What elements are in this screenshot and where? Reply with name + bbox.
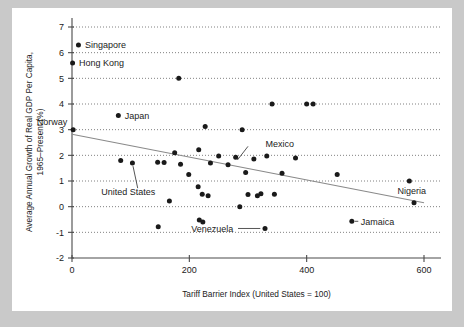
data-point xyxy=(251,156,256,161)
data-point xyxy=(272,192,277,197)
chart-canvas: -2-1012345670200400600 SingaporeHong Kon… xyxy=(0,0,464,327)
point-label: United States xyxy=(101,187,156,197)
data-point xyxy=(264,154,269,159)
point-label: Nigeria xyxy=(398,186,427,196)
y-tick-label: 7 xyxy=(59,22,64,32)
data-point xyxy=(167,199,172,204)
data-point xyxy=(196,184,201,189)
y-tick-label: 4 xyxy=(59,99,64,109)
leader-line xyxy=(133,166,138,188)
y-axis-title-line1: Average Annual Growth of Real GDP Per Ca… xyxy=(24,52,34,232)
y-tick-label: 5 xyxy=(59,74,64,84)
x-axis-title: Tariff Barrier Index (United States = 10… xyxy=(182,289,331,299)
data-point xyxy=(76,42,81,47)
data-point xyxy=(311,102,316,107)
data-point xyxy=(162,160,167,165)
y-axis-title-line2: 1965–Present (%) xyxy=(35,108,45,175)
leader-line xyxy=(237,146,248,160)
data-point xyxy=(70,60,75,65)
data-point xyxy=(255,193,260,198)
data-point xyxy=(226,162,231,167)
data-point xyxy=(412,200,417,205)
point-label: Hong Kong xyxy=(79,58,124,68)
data-point xyxy=(280,171,285,176)
data-point xyxy=(270,102,275,107)
x-tick-label: 0 xyxy=(69,265,74,275)
data-point xyxy=(176,76,181,81)
y-tick-label: 2 xyxy=(59,151,64,161)
gridlines xyxy=(73,27,441,232)
data-point xyxy=(156,224,161,229)
scatter-plot: -2-1012345670200400600 SingaporeHong Kon… xyxy=(0,0,464,327)
data-point xyxy=(263,226,268,231)
data-point xyxy=(200,192,205,197)
data-point xyxy=(118,158,123,163)
data-point xyxy=(130,161,135,166)
y-tick-label: -1 xyxy=(56,228,64,238)
data-point xyxy=(216,154,221,159)
data-point xyxy=(186,172,191,177)
data-point xyxy=(293,155,298,160)
x-tick-label: 200 xyxy=(182,265,197,275)
data-point xyxy=(155,160,160,165)
data-point xyxy=(71,127,76,132)
data-point xyxy=(407,179,412,184)
data-point xyxy=(233,155,238,160)
data-point xyxy=(116,113,121,118)
point-label: Singapore xyxy=(85,40,126,50)
data-point xyxy=(237,204,242,209)
data-points xyxy=(70,42,416,231)
x-tick-label: 400 xyxy=(299,265,314,275)
y-tick-label: 0 xyxy=(59,202,64,212)
data-point xyxy=(304,102,309,107)
data-point xyxy=(243,170,248,175)
leader-lines xyxy=(133,146,358,228)
data-point xyxy=(196,147,201,152)
data-point xyxy=(349,219,354,224)
data-point xyxy=(246,192,251,197)
point-labels: SingaporeHong KongJapanNorwayMexicoUnite… xyxy=(37,40,426,234)
point-label: Jamaica xyxy=(361,217,395,227)
data-point xyxy=(335,172,340,177)
data-point xyxy=(178,162,183,167)
point-label: Mexico xyxy=(266,139,295,149)
data-point xyxy=(208,161,213,166)
y-tick-label: 1 xyxy=(59,176,64,186)
x-tick-label: 600 xyxy=(416,265,431,275)
data-point xyxy=(203,124,208,129)
data-point xyxy=(240,127,245,132)
y-tick-label: 6 xyxy=(59,48,64,58)
point-label: Japan xyxy=(125,111,150,121)
data-point xyxy=(206,193,211,198)
data-point xyxy=(172,150,177,155)
point-label: Venezuela xyxy=(191,224,233,234)
y-tick-label: -2 xyxy=(56,253,64,263)
